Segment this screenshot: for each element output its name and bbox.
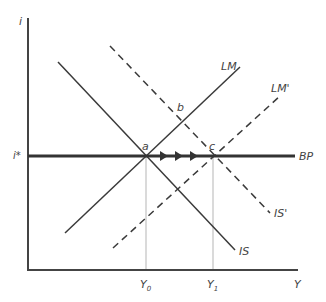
is-prime-curve bbox=[110, 46, 270, 213]
y1-subscript: 1 bbox=[214, 285, 218, 293]
point-a-label: a bbox=[142, 140, 149, 153]
x-axis-label: Y bbox=[294, 278, 302, 291]
y1-label: Y1 bbox=[207, 278, 218, 293]
y0-subscript: 0 bbox=[147, 285, 152, 293]
is-lm-bp-diagram: LM LM' BP IS' IS a b c i Y i* Y0 Y1 bbox=[0, 0, 326, 302]
bp-label: BP bbox=[299, 150, 314, 163]
movement-arrows bbox=[160, 151, 198, 161]
point-b-label: b bbox=[177, 101, 184, 114]
point-c-label: c bbox=[209, 140, 215, 153]
arrow-icon bbox=[190, 151, 198, 161]
arrow-icon bbox=[160, 151, 168, 161]
lm-prime-label: LM' bbox=[271, 82, 290, 95]
y-axis-label: i bbox=[19, 15, 22, 28]
i-star-label: i* bbox=[13, 150, 21, 161]
is-prime-label: IS' bbox=[274, 207, 287, 220]
lm-prime-curve bbox=[113, 96, 280, 248]
lm-label: LM bbox=[221, 60, 237, 73]
arrow-icon bbox=[175, 151, 183, 161]
y0-label: Y0 bbox=[140, 278, 152, 293]
is-label: IS bbox=[239, 245, 249, 258]
